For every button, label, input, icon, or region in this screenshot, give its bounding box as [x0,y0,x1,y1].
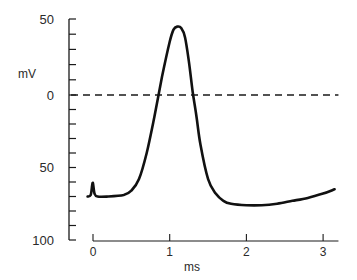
x-axis: 0123 [90,234,339,259]
action-potential-curve [88,26,335,205]
y-tick-label: 50 [40,12,54,27]
data-series [88,26,335,205]
y-axis-label: mV [18,67,36,81]
action-potential-chart: 50050100 0123 mV ms [0,0,357,280]
x-tick-label: 3 [320,245,327,259]
x-tick-label: 1 [166,245,173,259]
x-tick-label: 2 [243,245,250,259]
y-tick-label: 100 [32,233,54,248]
y-tick-label: 50 [40,160,54,175]
y-tick-label: 0 [47,88,54,103]
x-tick-label: 0 [90,245,97,259]
y-axis: 50050100 [32,12,76,248]
x-axis-label: ms [184,260,200,274]
